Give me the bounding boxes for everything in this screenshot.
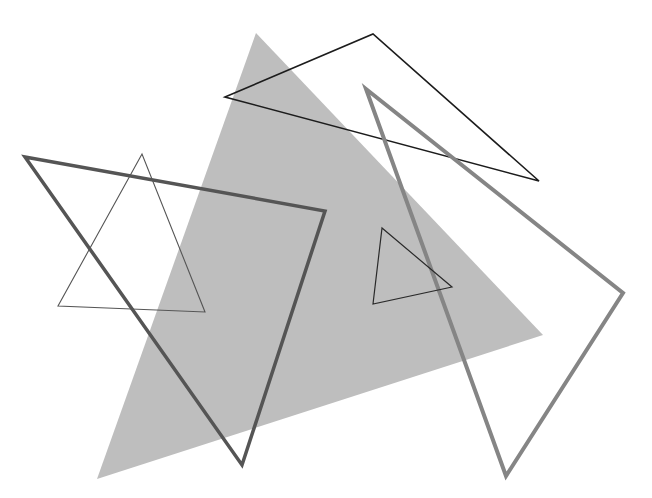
large-gray-filled-triangle xyxy=(97,33,543,479)
triangle-composition xyxy=(0,0,652,498)
triangle-composition-canvas xyxy=(0,0,652,498)
